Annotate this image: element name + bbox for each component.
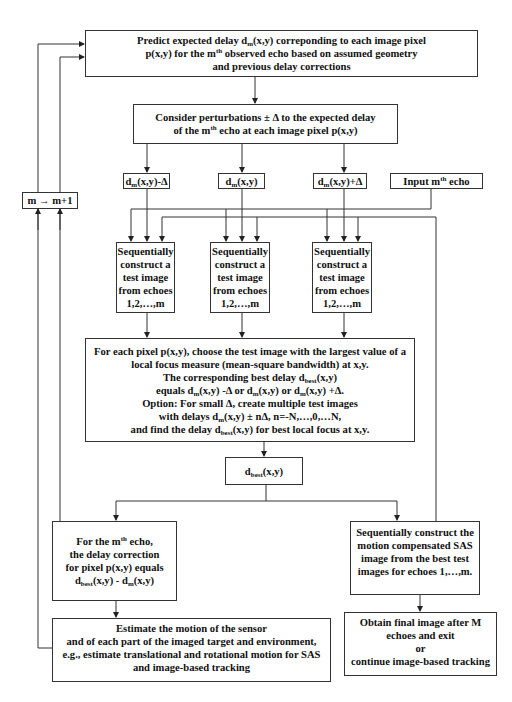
input-echo-box: Input mth echo xyxy=(390,173,483,189)
delay-center-box: dm(x,y) xyxy=(218,173,265,189)
predict-line-3: and previous delay corrections xyxy=(212,60,350,73)
predict-delay-box: Predict expected delay dm(x,y) correpond… xyxy=(85,30,478,77)
predict-line-1: Predict expected delay dm(x,y) correpond… xyxy=(137,34,426,47)
predict-line-2: p(x,y) for the mth observed echo based o… xyxy=(145,47,417,60)
dbest-box: dbest(x,y) xyxy=(225,457,303,485)
delay-correction-box: For the mth echo, the delay correction f… xyxy=(52,521,177,601)
delay-minus-box: dm(x,y)-Δ xyxy=(123,173,170,189)
delay-plus-box: dm(x,y)+Δ xyxy=(313,173,367,189)
consider-perturbations-box: Consider perturbations ± Δ to the expect… xyxy=(133,104,398,144)
final-image-box: Obtain final image after M echoes and ex… xyxy=(344,612,497,676)
seq-test-box-2: Sequentially construct a test image from… xyxy=(210,242,270,313)
consider-line-1: Consider perturbations ± Δ to the expect… xyxy=(155,111,375,124)
consider-line-2: of the mth echo at each image pixel p(x,… xyxy=(173,124,357,137)
choose-best-delay-box: For each pixel p(x,y), choose the test i… xyxy=(85,338,415,442)
seq-test-box-3: Sequentially construct a test image from… xyxy=(312,242,372,313)
sas-image-box: Sequentially construct the motion compen… xyxy=(350,521,480,595)
estimate-motion-box: Estimate the motion of the sensor and of… xyxy=(52,618,331,682)
seq-test-box-1: Sequentially construct a test image from… xyxy=(116,242,175,313)
increment-m-box: m → m+1 xyxy=(22,192,78,209)
